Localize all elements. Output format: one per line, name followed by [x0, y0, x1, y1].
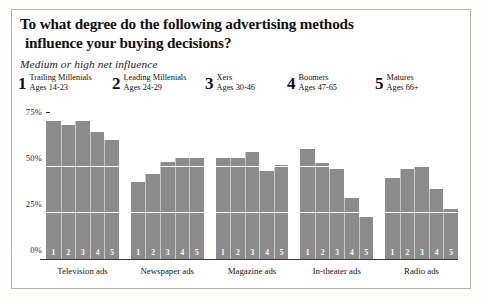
- bar: 3: [245, 152, 260, 259]
- bar-series-number: 4: [176, 249, 190, 257]
- legend-number: 5: [375, 72, 387, 92]
- x-axis-category-label: Television ads: [46, 259, 119, 276]
- chart-title-line-2: influence your buying decisions?: [20, 33, 450, 52]
- legend-text: Leading MillenialsAges 24-29: [124, 72, 187, 93]
- legend-group-name: Xers: [217, 73, 255, 83]
- legend-item-xers: 3XersAges 30-46: [205, 72, 287, 93]
- bar-groups: 12345Television ads12345Newspaper ads123…: [46, 112, 458, 259]
- bar: 1: [46, 121, 61, 259]
- legend-item-leading-millenials: 2Leading MillenialsAges 24-29: [112, 72, 205, 93]
- bar: 1: [216, 158, 231, 259]
- legend-group-ages: Ages 24-29: [124, 83, 187, 93]
- bar: 2: [230, 158, 245, 259]
- bar: 4: [429, 189, 444, 259]
- legend-number: 1: [18, 72, 30, 92]
- bar-series-number: 3: [246, 249, 260, 257]
- bar-group-radio-ads: 12345Radio ads: [385, 112, 458, 259]
- group-spacer: [119, 112, 131, 259]
- legend-number: 4: [287, 72, 299, 92]
- bar-series-number: 2: [146, 249, 160, 257]
- chart-legend: 1Trailing MillenialsAges 14-232Leading M…: [18, 72, 468, 93]
- bar-series-number: 2: [316, 249, 330, 257]
- bar: 4: [175, 158, 190, 259]
- bar-series-number: 5: [444, 249, 458, 257]
- gridline-25: [46, 212, 458, 213]
- legend-item-matures: 5MaturesAges 66+: [375, 72, 445, 93]
- bar: 2: [145, 174, 160, 259]
- legend-text: Trailing MillenialsAges 14-23: [30, 72, 92, 93]
- group-spacer: [289, 112, 301, 259]
- x-axis-category-label: Radio ads: [385, 259, 458, 276]
- bar-series-number: 2: [231, 249, 245, 257]
- bar-series-number: 1: [46, 249, 61, 257]
- legend-group-ages: Ages 47-65: [299, 83, 337, 93]
- bar: 2: [61, 125, 76, 259]
- legend-group-name: Leading Millenials: [124, 73, 187, 83]
- group-spacer: [373, 112, 385, 259]
- bar-series-number: 3: [161, 249, 175, 257]
- bar: 1: [385, 178, 400, 259]
- bar-series-number: 2: [62, 249, 76, 257]
- bar-series-number: 4: [260, 249, 274, 257]
- bar-series-number: 1: [216, 249, 231, 257]
- bar: 3: [75, 121, 90, 259]
- legend-text: BoomersAges 47-65: [299, 72, 337, 93]
- legend-group-name: Boomers: [299, 73, 337, 83]
- bar-group-magazine-ads: 12345Magazine ads: [216, 112, 289, 259]
- bar-series-number: 4: [345, 249, 359, 257]
- x-axis-category-label: Magazine ads: [216, 259, 289, 276]
- x-axis-category-label: Newspaper ads: [131, 259, 204, 276]
- group-spacer: [204, 112, 216, 259]
- legend-group-name: Trailing Millenials: [30, 73, 92, 83]
- bar-series-number: 1: [385, 249, 400, 257]
- bar-series-number: 1: [131, 249, 146, 257]
- bar: 5: [189, 158, 204, 259]
- bar: 4: [259, 171, 274, 259]
- gridline-50: [46, 166, 458, 167]
- plot-area: 75%50%25%0%12345Television ads12345Newsp…: [46, 112, 458, 259]
- legend-number: 3: [205, 72, 217, 92]
- bar: 1: [131, 182, 146, 259]
- legend-item-trailing-millenials: 1Trailing MillenialsAges 14-23: [18, 72, 112, 93]
- legend-group-name: Matures: [387, 73, 419, 83]
- legend-group-ages: Ages 66+: [387, 83, 419, 93]
- bar-series-number: 5: [105, 249, 119, 257]
- chart-header: To what degree do the following advertis…: [20, 14, 450, 70]
- x-axis-category-label: In-theater ads: [300, 259, 373, 276]
- bar: 3: [329, 169, 344, 259]
- y-axis-tick-25pct: 25%: [26, 199, 46, 209]
- bar-series-number: 4: [91, 249, 105, 257]
- legend-group-ages: Ages 30-46: [217, 83, 255, 93]
- bar: 5: [359, 217, 374, 259]
- chart-title-line-1: To what degree do the following advertis…: [20, 15, 354, 32]
- legend-text: XersAges 30-46: [217, 72, 255, 93]
- bar-series-number: 1: [300, 249, 315, 257]
- y-axis-tick-50pct: 50%: [26, 153, 46, 163]
- bar-series-number: 3: [76, 249, 90, 257]
- bar: 4: [90, 132, 105, 259]
- bar: 4: [344, 198, 359, 259]
- bar-series-number: 3: [330, 249, 344, 257]
- bar-series-number: 4: [430, 249, 444, 257]
- bar-series-number: 5: [275, 249, 289, 257]
- legend-text: MaturesAges 66+: [387, 72, 419, 93]
- y-axis-tick-0pct: 0%: [30, 245, 46, 255]
- bar: 3: [160, 162, 175, 259]
- bar: 3: [414, 167, 429, 259]
- page-title: To what degree do the following advertis…: [20, 14, 450, 53]
- chart-figure: To what degree do the following advertis…: [0, 0, 482, 298]
- legend-group-ages: Ages 14-23: [30, 83, 92, 93]
- legend-number: 2: [112, 72, 124, 92]
- bar-series-number: 2: [401, 249, 415, 257]
- bar-group-in-theater-ads: 12345In-theater ads: [300, 112, 373, 259]
- legend-item-boomers: 4BoomersAges 47-65: [287, 72, 375, 93]
- x-axis-line: [40, 259, 458, 260]
- bar-group-newspaper-ads: 12345Newspaper ads: [131, 112, 204, 259]
- chart-subtitle: Medium or high net influence: [20, 58, 450, 70]
- bar-group-television-ads: 12345Television ads: [46, 112, 119, 259]
- bar-series-number: 5: [190, 249, 204, 257]
- gridline-75: [46, 120, 458, 121]
- bar-series-number: 3: [415, 249, 429, 257]
- bar-series-number: 5: [360, 249, 374, 257]
- bar: 5: [443, 209, 458, 259]
